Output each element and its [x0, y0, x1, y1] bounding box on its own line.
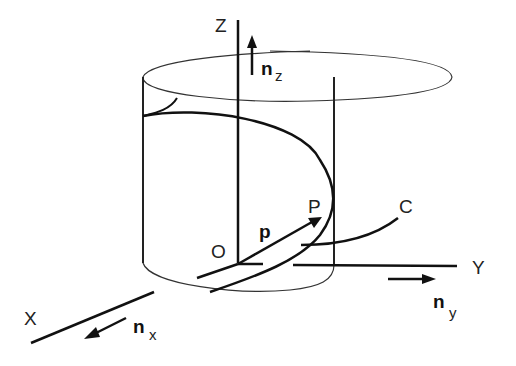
cylinder-top-rim — [143, 51, 452, 101]
nz-subscript: z — [275, 67, 283, 84]
point-p-label: P — [308, 196, 321, 217]
nz-label: n — [261, 58, 273, 79]
nx-arrow-shaft — [96, 318, 126, 333]
nx-arrow-head — [84, 327, 100, 339]
diagram-canvas: Z n z Y n y X n x O P p C — [0, 0, 516, 366]
x-axis-label: X — [24, 308, 37, 329]
cylinder-bottom-rim — [143, 263, 334, 291]
z-axis-label: Z — [215, 15, 227, 36]
nx-subscript: x — [149, 326, 157, 343]
ny-label: n — [433, 291, 445, 312]
vector-p-shaft — [238, 222, 312, 264]
nx-label: n — [133, 316, 145, 337]
nz-arrow-head — [247, 35, 257, 48]
ny-subscript: y — [449, 304, 457, 321]
origin-label: O — [211, 241, 226, 262]
y-axis-label: Y — [472, 257, 485, 278]
curve-c-label: C — [399, 196, 413, 217]
y-axis-outer — [293, 265, 457, 266]
ny-arrow-head — [422, 274, 436, 284]
vector-p-label: p — [259, 221, 271, 242]
x-axis-inner — [197, 264, 238, 278]
